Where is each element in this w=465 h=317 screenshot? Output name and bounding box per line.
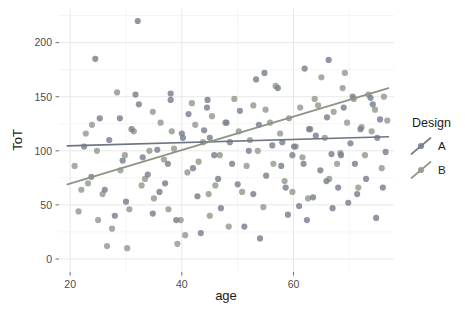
data-point [355,185,361,191]
data-point [241,223,247,229]
legend-item-label: B [438,164,446,176]
data-point [168,90,174,96]
data-point [381,94,387,100]
data-point [180,135,186,141]
data-point [262,107,268,113]
data-point [226,223,232,229]
data-point [285,212,291,218]
data-point [139,182,145,188]
data-point [379,165,385,171]
data-point [104,243,110,249]
data-point [278,163,284,169]
data-point [296,203,302,209]
data-point [189,100,195,106]
data-point [283,185,289,191]
data-point [182,232,188,238]
data-point [342,70,348,76]
data-point [331,109,337,115]
data-point [135,18,141,24]
data-point [190,165,196,171]
data-point [154,147,160,153]
data-point [250,191,256,197]
x-tick-label: 20 [64,278,76,290]
data-point [94,148,100,154]
data-point [89,122,95,128]
data-point [83,130,89,136]
data-point [192,122,198,128]
data-point [299,154,305,160]
data-point [174,241,180,247]
data-point [168,97,174,103]
y-tick-label: 0 [46,253,52,265]
data-point [352,161,358,167]
data-point [270,161,276,167]
data-point [300,161,306,167]
data-point [140,154,146,160]
data-point [132,91,138,97]
data-point [291,143,297,149]
data-point [323,178,329,184]
data-point [185,111,191,117]
data-point [112,213,118,219]
data-point [184,169,190,175]
y-tick-label: 200 [34,36,52,48]
data-point [95,217,101,223]
data-point [372,107,378,113]
data-point [122,152,128,158]
data-point [171,146,177,152]
data-point [223,120,229,126]
y-tick-label: 150 [34,91,52,103]
data-point [212,182,218,188]
data-point [81,143,87,149]
legend-key-point [418,167,424,173]
data-point [244,163,250,169]
data-point [120,157,126,163]
data-point [255,148,261,154]
data-point [304,217,310,223]
data-point [315,102,321,108]
data-point [156,189,162,195]
data-point [102,187,108,193]
data-point [231,96,237,102]
data-point [345,200,351,206]
data-point [363,176,369,182]
data-point [313,133,319,139]
data-point [310,194,316,200]
data-point [114,89,120,95]
data-point [362,152,368,158]
scatter-plot-figure: 204060 050100150200 age ToT Design AB [0,0,465,317]
data-point [217,152,223,158]
data-point [344,120,350,126]
data-point [341,104,347,110]
data-point [201,127,207,133]
data-point [277,130,283,136]
data-point [373,215,379,221]
data-point [312,96,318,102]
data-point [128,126,134,132]
data-point [150,109,156,115]
data-point [229,161,235,167]
data-point [204,97,210,103]
data-point [145,172,151,178]
data-point [173,217,179,223]
data-point [215,176,221,182]
data-point [281,178,287,184]
data-point [126,206,132,212]
data-point [169,128,175,134]
data-point [106,137,112,143]
y-tick-label: 100 [34,145,52,157]
data-point [237,108,243,114]
data-point [289,152,295,158]
data-point [263,173,269,179]
data-point [257,235,263,241]
data-point [239,189,245,195]
data-point [136,101,142,107]
data-point [253,76,259,82]
data-point [206,191,212,197]
data-point [318,74,324,80]
y-tick-label: 50 [40,199,52,211]
data-point [334,161,340,167]
data-point [260,204,266,210]
legend: Design AB [410,116,451,181]
data-point [204,104,210,110]
